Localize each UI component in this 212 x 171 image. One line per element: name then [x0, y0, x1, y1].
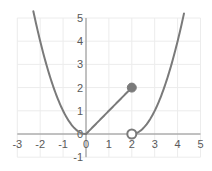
x-tick-label: -1: [58, 138, 68, 150]
x-tick-label: 3: [152, 138, 158, 150]
y-tick-label: 2: [77, 82, 83, 94]
gridlines: [17, 18, 200, 157]
x-tick-label: 2: [129, 138, 135, 150]
y-tick-label: 4: [77, 35, 83, 47]
y-tick-label: -1: [73, 151, 83, 163]
piecewise-function-chart: -3-2-1012345-1012345: [0, 0, 212, 171]
y-tick-label: 1: [77, 105, 83, 117]
y-tick-label: 3: [77, 58, 83, 70]
x-tick-label: 5: [197, 138, 203, 150]
closed-endpoint-marker: [127, 83, 136, 92]
x-tick-label: 0: [83, 138, 89, 150]
x-tick-label: -2: [35, 138, 45, 150]
open-endpoint-marker: [127, 130, 136, 139]
x-tick-label: 4: [175, 138, 181, 150]
curve-segment: [132, 13, 184, 134]
y-tick-label: 5: [77, 12, 83, 24]
x-tick-label: -3: [12, 138, 22, 150]
x-tick-label: 1: [106, 138, 112, 150]
